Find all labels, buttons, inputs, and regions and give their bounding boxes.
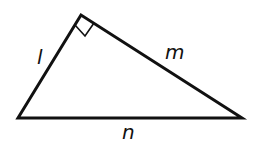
right-angle-marker <box>75 23 94 36</box>
side-label-n: n <box>122 120 135 144</box>
side-label-l: l <box>37 45 43 69</box>
triangle-diagram: l m n <box>0 0 258 148</box>
side-label-m: m <box>165 40 184 64</box>
triangle-shape <box>18 15 242 118</box>
